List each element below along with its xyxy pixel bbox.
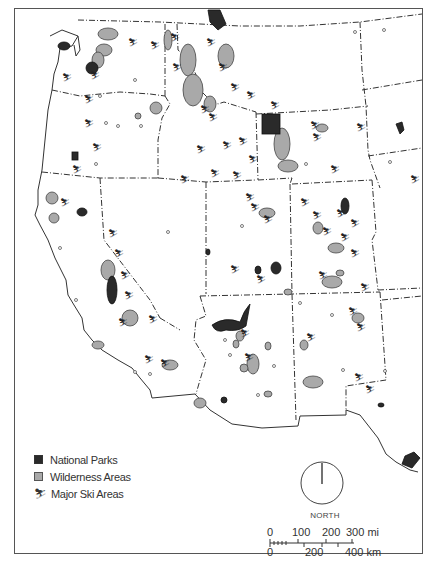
svg-text:⛷: ⛷ <box>238 137 248 146</box>
svg-text:⛷: ⛷ <box>350 249 360 258</box>
svg-text:⛷: ⛷ <box>218 63 228 72</box>
scale-mi-100: 100 <box>292 526 310 538</box>
svg-text:⛷: ⛷ <box>350 219 360 228</box>
svg-text:⛷: ⛷ <box>84 119 94 128</box>
svg-text:⛷: ⛷ <box>208 113 218 122</box>
svg-text:⛷: ⛷ <box>118 318 128 327</box>
svg-text:⛷: ⛷ <box>170 33 180 42</box>
svg-text:⛷: ⛷ <box>336 209 346 218</box>
svg-text:⛷: ⛷ <box>230 83 240 92</box>
svg-text:⛷: ⛷ <box>150 41 160 50</box>
svg-text:⛷: ⛷ <box>248 155 258 164</box>
legend-label: Major Ski Areas <box>51 488 124 500</box>
svg-text:⛷: ⛷ <box>124 291 134 300</box>
svg-text:⛷: ⛷ <box>60 198 70 207</box>
svg-text:⛷: ⛷ <box>310 121 320 130</box>
svg-text:⛷: ⛷ <box>263 215 273 224</box>
svg-text:⛷: ⛷ <box>120 271 130 280</box>
wilderness-swatch <box>34 472 43 481</box>
scale-mi-300: 300 mi <box>346 526 379 538</box>
legend-label: National Parks <box>50 454 117 466</box>
svg-text:⛷: ⛷ <box>244 353 254 362</box>
svg-text:⛷: ⛷ <box>206 38 216 47</box>
svg-text:⛷: ⛷ <box>90 71 100 80</box>
svg-text:⛷: ⛷ <box>210 169 220 178</box>
svg-text:⛷: ⛷ <box>172 63 182 72</box>
svg-text:⛷: ⛷ <box>340 233 350 242</box>
svg-text:⛷: ⛷ <box>348 307 358 316</box>
north-label: NORTH <box>308 511 342 520</box>
svg-text:⛷: ⛷ <box>222 141 232 150</box>
svg-text:⛷: ⛷ <box>114 249 124 258</box>
svg-text:⛷: ⛷ <box>306 333 316 342</box>
svg-text:⛷: ⛷ <box>246 91 256 100</box>
scale-mi-200: 200 <box>322 526 340 538</box>
svg-text:⛷: ⛷ <box>356 323 366 332</box>
svg-text:⛷: ⛷ <box>62 73 72 82</box>
legend-item-national-parks: National Parks <box>34 451 131 468</box>
svg-text:⛷: ⛷ <box>322 227 332 236</box>
svg-text:⛷: ⛷ <box>144 355 154 364</box>
svg-text:⛷: ⛷ <box>312 211 322 220</box>
svg-text:⛷: ⛷ <box>160 359 170 368</box>
skier-icon: ⛷ <box>34 488 46 499</box>
svg-text:⛷: ⛷ <box>108 229 118 238</box>
svg-text:⛷: ⛷ <box>360 283 370 292</box>
national-park-swatch <box>34 455 43 464</box>
svg-text:⛷: ⛷ <box>230 265 240 274</box>
svg-text:⛷: ⛷ <box>128 38 138 47</box>
scale-km-400: 400 km <box>345 546 381 558</box>
svg-text:⛷: ⛷ <box>232 171 242 180</box>
svg-text:⛷: ⛷ <box>72 165 82 174</box>
svg-text:⛷: ⛷ <box>300 198 310 207</box>
svg-text:⛷: ⛷ <box>196 145 206 154</box>
legend-item-wilderness: Wilderness Areas <box>34 468 131 485</box>
scale-km-200: 200 <box>305 546 323 558</box>
svg-text:⛷: ⛷ <box>318 271 328 280</box>
scale-km-0: 0 <box>267 546 273 558</box>
svg-text:⛷: ⛷ <box>250 203 260 212</box>
svg-text:⛷: ⛷ <box>365 385 375 394</box>
svg-text:⛷: ⛷ <box>410 175 420 184</box>
svg-text:⛷: ⛷ <box>354 373 364 382</box>
svg-text:⛷: ⛷ <box>92 143 102 152</box>
legend-label: Wilderness Areas <box>50 471 131 483</box>
map-legend: National Parks Wilderness Areas ⛷ Major … <box>34 451 131 502</box>
svg-text:⛷: ⛷ <box>256 275 266 284</box>
svg-text:⛷: ⛷ <box>148 315 158 324</box>
legend-item-ski-areas: ⛷ Major Ski Areas <box>34 485 131 502</box>
svg-text:⛷: ⛷ <box>84 95 94 104</box>
north-compass <box>301 462 343 504</box>
svg-text:⛷: ⛷ <box>240 329 250 338</box>
svg-text:⛷: ⛷ <box>356 123 366 132</box>
scale-mi-0: 0 <box>267 526 273 538</box>
svg-text:⛷: ⛷ <box>270 101 280 110</box>
svg-text:⛷: ⛷ <box>330 165 340 174</box>
svg-text:⛷: ⛷ <box>180 175 190 184</box>
svg-text:⛷: ⛷ <box>312 133 322 142</box>
svg-text:⛷: ⛷ <box>245 193 255 202</box>
